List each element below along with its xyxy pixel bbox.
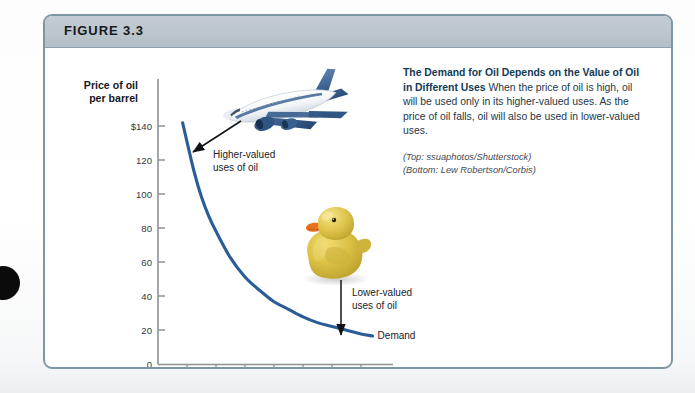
svg-text:100: 100	[136, 189, 152, 200]
lower-valued-annotation: Lower-valued uses of oil	[341, 280, 412, 335]
y-axis-title: Price of oil per barrel	[84, 79, 138, 104]
demand-curve-label: Demand	[378, 330, 416, 341]
lower-valued-label-line1: Lower-valued	[352, 287, 412, 298]
lower-valued-label-line2: uses of oil	[352, 300, 397, 311]
svg-text:0: 0	[147, 359, 152, 369]
svg-text:$140: $140	[131, 121, 152, 132]
higher-valued-label-line2: uses of oil	[213, 162, 258, 173]
y-axis-ticks: $140 120 100 80 60 40 20 0	[131, 121, 165, 369]
rubber-duck-photo	[302, 207, 371, 286]
higher-valued-label-line1: Higher-valued	[213, 149, 275, 160]
svg-text:40: 40	[141, 291, 152, 302]
svg-text:60: 60	[141, 257, 152, 268]
svg-text:Price of oil: Price of oil	[84, 79, 138, 91]
demand-curve-chart: Price of oil per barrel $140 120 100 80 …	[45, 47, 673, 369]
figure-number-label: FIGURE 3.3	[64, 23, 144, 38]
svg-text:20: 20	[141, 325, 152, 336]
airplane-photo	[209, 66, 353, 147]
svg-text:120: 120	[136, 155, 152, 166]
figure-frame: FIGURE 3.3 The Demand for Oil Depends on…	[43, 14, 673, 369]
svg-text:80: 80	[141, 223, 152, 234]
svg-text:per barrel: per barrel	[89, 92, 138, 104]
